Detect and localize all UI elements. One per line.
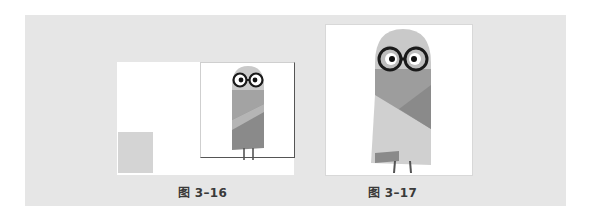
figure-card — [25, 15, 566, 206]
figure-caption-3-17: 图 3–17 — [368, 183, 417, 200]
owl-illustration-small — [226, 64, 270, 162]
figure-caption-3-16: 图 3–16 — [178, 183, 227, 200]
owl-illustration-large — [369, 25, 437, 173]
placeholder-square — [118, 132, 153, 173]
